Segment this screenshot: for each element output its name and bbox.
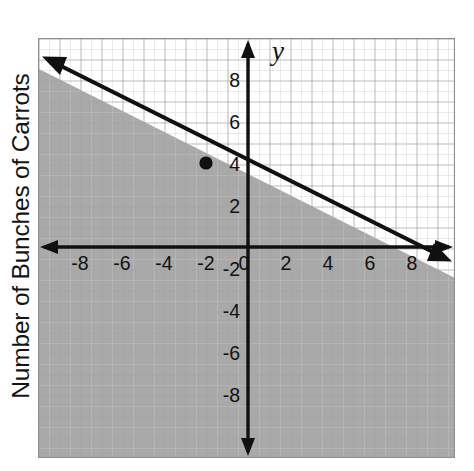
y-tick-label: 4: [208, 153, 240, 176]
y-tick-label: 6: [208, 111, 240, 134]
y-tick-label: 2: [208, 195, 240, 218]
y-tick-label: -4: [200, 300, 240, 323]
coordinate-plane: y x -8 -6 -4 -2 0 2 4 6 8 8 6 4 2 -2 -4 …: [38, 38, 455, 458]
y-tick-label: -8: [200, 384, 240, 407]
coordinate-plane-svg: [38, 38, 455, 458]
x-tick-label: 8: [400, 252, 424, 275]
y-tick-label: -2: [200, 258, 240, 281]
y-axis-letter: y: [272, 36, 284, 67]
y-tick-label: 8: [208, 69, 240, 92]
vertical-axis-caption: Number of Bunches of Carrots: [3, 26, 39, 446]
x-tick-label: 4: [316, 252, 340, 275]
x-tick-label: 6: [358, 252, 382, 275]
x-tick-label: -4: [144, 252, 184, 275]
x-tick-label: -8: [60, 252, 100, 275]
x-tick-label: 2: [274, 252, 298, 275]
graph-screenshot: Number of Bunches of Carrots: [0, 0, 474, 471]
y-tick-label: -6: [200, 342, 240, 365]
x-tick-label: -6: [102, 252, 142, 275]
